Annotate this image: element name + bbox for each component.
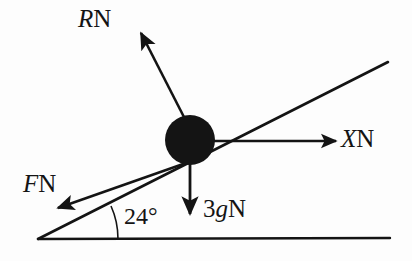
normal-force-arrow (141, 33, 186, 121)
applied-force-label: XN (341, 126, 374, 151)
friction-force-unit: N (38, 170, 56, 197)
friction-force-label: FN (23, 171, 56, 196)
ground-line (38, 238, 390, 239)
gravity-symbol: g (216, 195, 229, 222)
friction-force-symbol: F (23, 170, 38, 197)
normal-force-unit: N (93, 5, 111, 32)
normal-force-label: RN (78, 6, 111, 31)
weight-force-label: 3gN (203, 196, 246, 221)
applied-force-unit: N (356, 125, 374, 152)
angle-arc (111, 206, 118, 239)
weight-unit: N (228, 195, 246, 222)
normal-force-symbol: R (78, 5, 93, 32)
friction-force-arrow (58, 163, 186, 208)
incline-angle-label: 24° (124, 204, 158, 228)
force-diagram: RN XN FN 3gN 24° (0, 0, 412, 261)
particle-body (165, 115, 215, 165)
weight-coefficient: 3 (203, 195, 216, 222)
applied-force-symbol: X (341, 125, 356, 152)
